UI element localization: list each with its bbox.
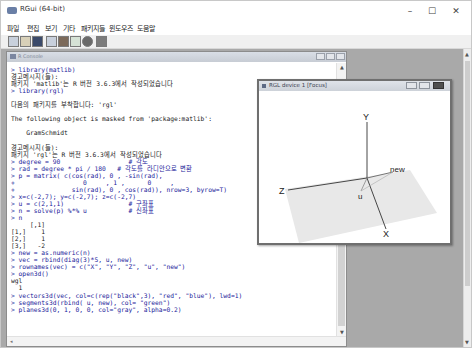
menu-edit[interactable]: 편집 <box>27 23 39 33</box>
toolbar <box>1 35 471 49</box>
console-input-line: > segments3d(rbind( u, new), col= "green… <box>11 299 336 306</box>
scroll-up-icon[interactable]: ▲ <box>340 64 344 70</box>
console-input-line: > vectors3d(vec, col=c(rep("black",3), "… <box>11 292 336 299</box>
rgl-title: RGL device 1 [Focus] <box>269 82 327 88</box>
menu-file[interactable]: 파일 <box>7 23 19 33</box>
console-input-line: > open3d() <box>11 270 336 277</box>
rgl-3d-canvas[interactable]: Y Z X u new <box>259 91 450 243</box>
menu-help[interactable]: 도움말 <box>137 23 155 33</box>
console-horizontal-scrollbar[interactable]: ◂ <box>7 336 346 346</box>
paste-icon[interactable] <box>58 36 69 47</box>
scroll-thumb[interactable] <box>465 61 470 286</box>
rgl-device-window: RGL device 1 [Focus] Y Z X u new <box>257 79 452 245</box>
console-title-bar[interactable]: R Console <box>7 52 346 62</box>
rgui-window: RGui (64-bit) – ☐ ✕ 파일 편집 보기 기타 패키지들 윈도우… <box>0 0 472 348</box>
title-bar: RGui (64-bit) – ☐ ✕ <box>1 1 471 21</box>
menu-view[interactable]: 보기 <box>45 23 57 33</box>
console-maximize-button[interactable] <box>326 53 335 60</box>
console-input-line: > new = as.numeric(n) <box>11 249 336 256</box>
z-axis-label: Z <box>279 186 285 196</box>
new-label: new <box>390 165 405 174</box>
load-workspace-icon[interactable] <box>20 36 31 47</box>
x-axis-label: X <box>383 229 389 239</box>
rgl-maximize-button[interactable] <box>419 82 430 89</box>
rgl-close-button[interactable] <box>433 82 444 89</box>
close-button[interactable]: ✕ <box>445 3 467 19</box>
console-close-button[interactable] <box>336 53 345 60</box>
rgl-minimize-button[interactable] <box>406 82 417 89</box>
save-workspace-icon[interactable] <box>32 36 43 47</box>
rgl-icon <box>262 84 266 88</box>
rgl-title-bar[interactable]: RGL device 1 [Focus] <box>259 81 450 91</box>
stop-icon[interactable] <box>82 36 93 47</box>
console-output-line: wgl <box>11 277 336 284</box>
y-axis-label: Y <box>363 112 369 122</box>
console-input-line: > planes3d(0, 1, 0, 0, col="gray", alpha… <box>11 306 336 313</box>
console-input-line: > rownames(vec) = c("X", "Y", "Z", "u", … <box>11 263 336 270</box>
console-input-line: > vec = rbind(diag(3)*5, u, new) <box>11 256 336 263</box>
console-title: R Console <box>18 53 43 59</box>
copy-icon[interactable] <box>46 36 57 47</box>
scroll-up-icon[interactable]: ▲ <box>465 51 469 57</box>
scroll-down-icon[interactable]: ▼ <box>465 339 469 345</box>
menu-misc[interactable]: 기타 <box>63 23 75 33</box>
menu-packages[interactable]: 패키지들 <box>81 23 105 33</box>
print-icon[interactable] <box>96 36 107 47</box>
menu-windows[interactable]: 윈도우즈 <box>109 23 133 33</box>
scroll-down-icon[interactable]: ▼ <box>340 329 344 335</box>
console-icon <box>10 54 16 59</box>
console-minimize-button[interactable] <box>316 53 325 60</box>
u-label: u <box>358 192 362 201</box>
r-app-icon <box>7 7 17 14</box>
window-title: RGui (64-bit) <box>20 5 65 13</box>
copy-paste-icon[interactable] <box>70 36 81 47</box>
open-script-icon[interactable] <box>8 36 19 47</box>
minimize-button[interactable]: – <box>399 3 421 19</box>
scroll-left-icon[interactable]: ◂ <box>10 338 13 344</box>
plane-3d <box>285 170 437 243</box>
maximize-button[interactable]: ☐ <box>421 3 443 19</box>
console-output-line: 1 <box>11 284 336 291</box>
workspace-scrollbar[interactable]: ▲ ▼ <box>463 49 471 347</box>
menu-bar: 파일 편집 보기 기타 패키지들 윈도우즈 도움말 <box>1 21 471 35</box>
console-input-line: > library(matlib) <box>11 66 336 73</box>
